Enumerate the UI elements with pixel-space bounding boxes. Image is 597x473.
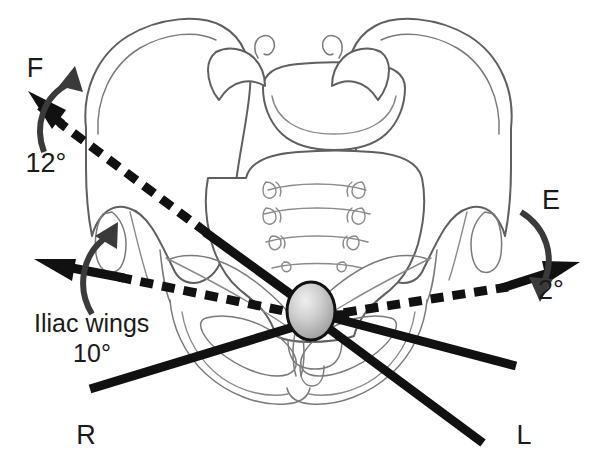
left-iliac-pillar-line bbox=[449, 212, 467, 280]
right-iliac-pillar-line bbox=[130, 212, 148, 280]
iliac-axis-arrow-shaft bbox=[72, 268, 124, 278]
extension-angle-label: 2° bbox=[538, 275, 564, 305]
iliac-wings-label: Iliac wings bbox=[34, 309, 149, 337]
right-lower-shallow-axis bbox=[334, 318, 516, 366]
flexion-letter-label: F bbox=[27, 53, 44, 83]
rotation-center-sphere-group bbox=[287, 282, 335, 340]
l5-left-articular-hook bbox=[323, 36, 343, 58]
extension-letter-label: E bbox=[542, 185, 560, 215]
side-marker-right: R bbox=[76, 420, 96, 450]
iliac-wings-angle-label: 10° bbox=[73, 339, 111, 367]
rotation-center-sphere bbox=[287, 282, 335, 340]
right-lower-steep-axis bbox=[324, 325, 483, 443]
side-marker-left: L bbox=[516, 420, 531, 450]
pelvis-diagram-canvas: F 12° E 2° Iliac wings 10° R L bbox=[0, 0, 597, 473]
left-aiis-outline bbox=[471, 212, 502, 272]
pelvis-diagram-figure: F 12° E 2° Iliac wings 10° R L bbox=[0, 0, 597, 473]
l5-right-articular-hook bbox=[255, 36, 275, 58]
flexion-angle-label: 12° bbox=[26, 148, 67, 178]
iliac-axis-arrowhead bbox=[34, 259, 76, 281]
